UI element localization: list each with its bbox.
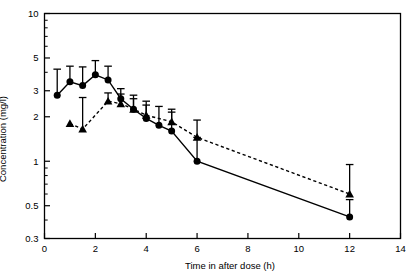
x-axis-title: Time in after dose (h) (185, 260, 275, 271)
data-point-triangle (167, 117, 176, 125)
data-point-circle (66, 78, 73, 85)
x-tick-label: 4 (144, 243, 149, 254)
y-tick-label: 0.5 (25, 200, 38, 211)
data-point-circle (54, 92, 61, 99)
data-point-circle (155, 122, 162, 129)
series-line (57, 75, 349, 217)
data-point-triangle (66, 119, 75, 127)
x-tick-label: 12 (344, 243, 355, 254)
y-tick-label: 2 (33, 111, 38, 122)
series-circle (53, 61, 353, 221)
data-point-triangle (104, 97, 113, 105)
x-tick-label: 6 (194, 243, 199, 254)
y-tick-label: 5 (33, 52, 38, 63)
series-line (70, 101, 350, 194)
series-triangle (66, 93, 354, 198)
x-tick-label: 8 (245, 243, 250, 254)
y-tick-label: 3 (33, 85, 38, 96)
data-point-circle (79, 82, 86, 89)
data-point-circle (92, 71, 99, 78)
chart-figure: 024681012140.30.5123510 Concentration (m… (0, 0, 415, 278)
x-tick-label: 0 (42, 243, 47, 254)
data-point-circle (194, 158, 201, 165)
plot-frame (45, 14, 401, 239)
y-tick-label: 0.3 (25, 233, 38, 244)
x-tick-label: 10 (293, 243, 304, 254)
data-point-circle (168, 128, 175, 135)
y-axis-title: Concentration (mg/l) (0, 96, 8, 182)
x-tick-label: 2 (93, 243, 98, 254)
chart-canvas: 024681012140.30.5123510 (0, 0, 415, 278)
x-tick-label: 14 (395, 243, 406, 254)
data-point-triangle (142, 111, 151, 119)
y-tick-label: 1 (33, 156, 38, 167)
data-point-circle (105, 76, 112, 83)
data-point-circle (346, 213, 353, 220)
y-tick-label: 10 (28, 8, 39, 19)
